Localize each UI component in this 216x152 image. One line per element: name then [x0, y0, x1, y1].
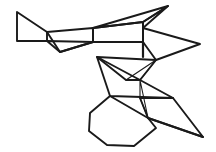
figure-canvas	[0, 0, 216, 152]
polygon-net-drawing	[0, 0, 216, 152]
